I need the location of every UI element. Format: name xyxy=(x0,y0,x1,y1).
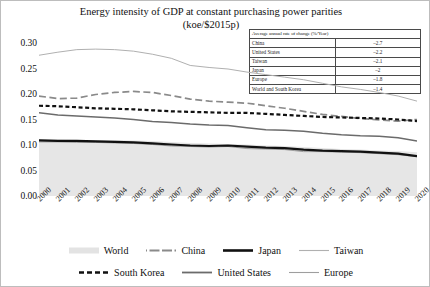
y-axis: 0.000.050.100.150.200.250.30 xyxy=(1,43,37,196)
y-axis-tick-label: 0.15 xyxy=(3,115,37,125)
chart-title-line1: Energy intensity of GDP at constant purc… xyxy=(80,6,342,17)
y-axis-tick-label: 0.10 xyxy=(3,140,37,150)
legend-row-2: South KoreaUnited StatesEurope xyxy=(1,261,430,283)
legend-label: United States xyxy=(217,267,271,278)
rate-table-header-row: Average annual rate of change (%/Year) xyxy=(250,30,421,39)
legend-label: South Korea xyxy=(114,267,164,278)
legend-item-europe[interactable]: Europe xyxy=(289,267,353,278)
legend-swatch-icon xyxy=(289,267,319,278)
plot-area xyxy=(39,43,417,196)
legend-label: China xyxy=(181,245,205,256)
legend-swatch-icon xyxy=(182,267,212,278)
legend-swatch-icon xyxy=(223,245,253,256)
legend-item-taiwan[interactable]: Taiwan xyxy=(299,245,363,256)
legend-item-china[interactable]: China xyxy=(146,245,205,256)
x-axis: 2000200120022003200420052006200720082009… xyxy=(39,197,417,231)
legend-swatch-icon xyxy=(69,245,99,256)
y-axis-tick-label: 0.00 xyxy=(3,191,37,201)
legend-label: World xyxy=(104,245,129,256)
chart-title: Energy intensity of GDP at constant purc… xyxy=(31,5,391,31)
y-axis-tick-label: 0.05 xyxy=(3,166,37,176)
y-axis-tick-label: 0.30 xyxy=(3,38,37,48)
series-line-south-korea xyxy=(39,106,417,121)
legend-item-world[interactable]: World xyxy=(69,245,129,256)
legend-label: Japan xyxy=(258,245,281,256)
legend-label: Taiwan xyxy=(334,245,363,256)
series-canvas xyxy=(39,43,417,196)
legend-row-1: WorldChinaJapanTaiwan xyxy=(1,239,430,261)
series-area-world xyxy=(39,139,417,196)
chart-figure: Energy intensity of GDP at constant purc… xyxy=(0,0,430,287)
series-line-united-states xyxy=(39,113,417,141)
legend-item-south-korea[interactable]: South Korea xyxy=(79,267,164,278)
legend-swatch-icon xyxy=(299,245,329,256)
y-axis-tick-label: 0.25 xyxy=(3,64,37,74)
legend-item-united-states[interactable]: United States xyxy=(182,267,271,278)
legend-swatch-icon xyxy=(146,245,176,256)
legend-swatch-icon xyxy=(79,267,109,278)
legend-item-japan[interactable]: Japan xyxy=(223,245,281,256)
series-line-taiwan xyxy=(39,49,417,101)
x-axis-tick-label: 2000 xyxy=(35,185,53,203)
chart-legend: WorldChinaJapanTaiwan South KoreaUnited … xyxy=(1,239,430,285)
y-axis-tick-label: 0.20 xyxy=(3,89,37,99)
legend-label: Europe xyxy=(324,267,353,278)
rate-table-header-cell: Average annual rate of change (%/Year) xyxy=(250,30,421,39)
